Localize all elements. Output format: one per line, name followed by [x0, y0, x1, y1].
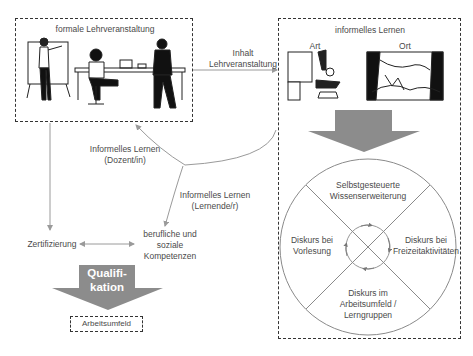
ort-label: Ort	[390, 41, 420, 52]
circle-top-label: Selbstgesteuerte Wissenserweiterung	[323, 180, 413, 202]
competences-line1: berufliche und	[135, 229, 205, 240]
circle-top-line2: Wissenserweiterung	[323, 191, 413, 202]
circle-left-line1: Diskurs bei	[282, 235, 342, 246]
workplace-label: Arbeitsumfeld	[70, 318, 143, 329]
learner-informal-line1: Informelles Lernen	[170, 190, 260, 201]
informal-learning-title: informelles Lernen	[320, 25, 420, 36]
certification-label: Zertifizierung	[22, 239, 82, 250]
art-label: Art	[300, 41, 330, 52]
lecturer-informal-line1: Informelles Lernen	[80, 144, 170, 155]
qualification-line2: kation	[78, 280, 136, 294]
circle-left-line2: Vorlesung	[282, 246, 342, 257]
qualification-line1: Qualifi-	[78, 266, 136, 280]
content-connector-line1: Inhalt	[203, 48, 283, 59]
circle-bottom-label: Diskurs im Arbeitsumfeld / Lerngruppen	[330, 288, 406, 321]
circle-right-line2: Freizeitaktivitäten	[392, 246, 460, 257]
circle-bottom-line3: Lerngruppen	[330, 310, 406, 321]
circle-bottom-line2: Arbeitsumfeld /	[330, 299, 406, 310]
content-connector-label: Inhalt Lehrveranstaltung	[203, 48, 283, 70]
qualification-label: Qualifi- kation	[78, 266, 136, 294]
competences-line3: Kompetenzen	[135, 251, 205, 262]
formal-education-title: formale Lehrveranstaltung	[55, 24, 155, 35]
learner-informal-label: Informelles Lernen (Lernende/r)	[170, 190, 260, 212]
competences-label: berufliche und soziale Kompetenzen	[135, 229, 205, 262]
lecturer-informal-label: Informelles Lernen (Dozent/in)	[80, 144, 170, 166]
lecturer-informal-line2: (Dozent/in)	[80, 155, 170, 166]
learner-informal-line2: (Lernende/r)	[170, 201, 260, 212]
circle-left-label: Diskurs bei Vorlesung	[282, 235, 342, 257]
circle-right-label: Diskurs bei Freizeitaktivitäten	[392, 235, 460, 257]
competences-line2: soziale	[135, 240, 205, 251]
circle-right-line1: Diskurs bei	[392, 235, 460, 246]
circle-top-line1: Selbstgesteuerte	[323, 180, 413, 191]
content-connector-line2: Lehrveranstaltung	[203, 59, 283, 70]
circle-bottom-line1: Diskurs im	[330, 288, 406, 299]
